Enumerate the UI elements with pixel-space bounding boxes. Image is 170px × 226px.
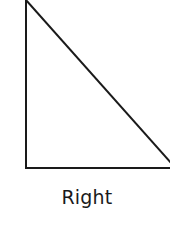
- hypotenuse: [26, 0, 170, 164]
- triangle-type-label: Right: [0, 186, 170, 208]
